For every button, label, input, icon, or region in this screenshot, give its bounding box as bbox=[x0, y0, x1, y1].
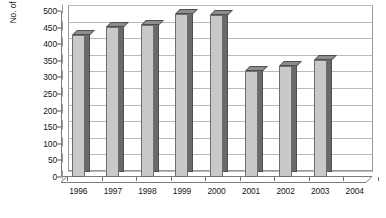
bar-front-face bbox=[141, 25, 154, 177]
x-axis-tick-labels: 199619971998199920002001200220032004 bbox=[61, 186, 372, 200]
bar-top-face bbox=[210, 10, 233, 15]
y-axis-tick-label: 400 bbox=[43, 39, 57, 49]
bar-front-face bbox=[314, 60, 327, 177]
bar bbox=[106, 22, 119, 177]
bar-top-face bbox=[245, 66, 268, 71]
y-axis-tick-label: 500 bbox=[43, 6, 57, 16]
bar-front-face bbox=[106, 27, 119, 177]
bars-layer bbox=[62, 11, 373, 177]
bar bbox=[72, 30, 85, 177]
y-axis-title: No. of accounts served per PUB employee bbox=[6, 0, 32, 40]
x-axis-tick-mark bbox=[309, 177, 310, 181]
x-axis-tick-mark bbox=[205, 177, 206, 181]
bar-side-face bbox=[188, 9, 193, 172]
bar-front-face bbox=[279, 66, 292, 177]
bar-side-face bbox=[258, 66, 263, 172]
x-axis-tick-mark bbox=[171, 177, 172, 181]
bar-side-face bbox=[119, 22, 124, 172]
bar-side-face bbox=[292, 61, 297, 172]
x-axis-tick-mark bbox=[67, 177, 68, 181]
y-axis-tick-label: 50 bbox=[48, 155, 57, 165]
x-axis-tick-label: 1998 bbox=[138, 186, 156, 196]
y-axis-tick-label: 200 bbox=[43, 106, 57, 116]
bar-side-face bbox=[85, 30, 90, 172]
x-axis-tick-label: 1999 bbox=[173, 186, 191, 196]
x-axis-tick-marks bbox=[67, 177, 378, 182]
bar-top-face bbox=[141, 20, 164, 25]
bar-side-face bbox=[327, 55, 332, 172]
x-axis-tick-mark bbox=[343, 177, 344, 181]
bar bbox=[245, 66, 258, 177]
bar-top-face bbox=[175, 9, 198, 14]
y-axis-tick-label: 100 bbox=[43, 139, 57, 149]
bar-front-face bbox=[72, 35, 85, 177]
y-axis-tick-labels: 500450400350300250200150100500 bbox=[30, 11, 57, 177]
bar-front-face bbox=[175, 14, 188, 177]
bar bbox=[141, 20, 154, 177]
bar-front-face bbox=[210, 15, 223, 177]
x-axis-tick-mark bbox=[102, 177, 103, 181]
bar bbox=[210, 10, 223, 177]
x-axis-tick-mark bbox=[136, 177, 137, 181]
bar-side-face bbox=[154, 20, 159, 172]
y-axis-tick-label: 300 bbox=[43, 72, 57, 82]
x-axis-tick-label: 2002 bbox=[276, 186, 294, 196]
x-axis-tick-label: 2004 bbox=[346, 186, 364, 196]
bar bbox=[175, 9, 188, 177]
bar bbox=[314, 55, 327, 177]
bar-front-face bbox=[245, 71, 258, 177]
x-axis-tick-label: 2000 bbox=[207, 186, 225, 196]
bar-top-face bbox=[279, 61, 302, 66]
y-axis-tick-label: 350 bbox=[43, 56, 57, 66]
gridline bbox=[68, 5, 373, 6]
bar-top-face bbox=[72, 30, 95, 35]
y-axis-tick-label: 450 bbox=[43, 23, 57, 33]
bar-chart: No. of accounts served per PUB employee … bbox=[0, 0, 386, 218]
bar-side-face bbox=[223, 10, 228, 172]
bar-top-face bbox=[106, 22, 129, 27]
plot-area bbox=[61, 11, 372, 177]
x-axis-tick-label: 1996 bbox=[69, 186, 87, 196]
x-axis-tick-label: 2003 bbox=[311, 186, 329, 196]
x-axis-tick-label: 2001 bbox=[242, 186, 260, 196]
bar bbox=[279, 61, 292, 177]
x-axis-tick-mark bbox=[274, 177, 275, 181]
y-axis-tick-label: 250 bbox=[43, 89, 57, 99]
bar-top-face bbox=[314, 55, 337, 60]
x-axis-tick-mark bbox=[240, 177, 241, 181]
x-axis-tick-mark bbox=[378, 177, 379, 181]
x-axis-tick-label: 1997 bbox=[104, 186, 122, 196]
y-axis-tick-label: 150 bbox=[43, 122, 57, 132]
